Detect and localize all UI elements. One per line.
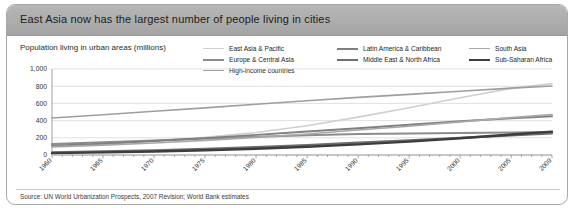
- legend-item-label: Latin America & Caribbean: [363, 45, 441, 52]
- chart-subtitle: Population living in urban areas (millio…: [20, 43, 166, 52]
- page-title: East Asia now has the largest number of …: [20, 13, 330, 25]
- source-divider: [16, 189, 560, 190]
- chart-svg: 02004006008001,0001960196519701975198019…: [20, 65, 556, 181]
- y-axis-tick-label: 800: [36, 83, 48, 90]
- legend-item-label: Europe & Central Asia: [229, 56, 294, 63]
- x-axis-tick-label: 1975: [190, 157, 206, 173]
- y-axis-tick-label: 400: [36, 117, 48, 124]
- x-axis-tick-label: 1990: [344, 157, 360, 173]
- legend-item: East Asia & Pacific: [203, 45, 284, 52]
- legend-item-label: Sub-Saharan Africa: [495, 56, 552, 63]
- x-axis-tick-label: 1985: [292, 157, 308, 173]
- series-line: [52, 86, 552, 118]
- x-axis-tick-label: 2005: [497, 157, 513, 173]
- y-axis-tick-label: 600: [36, 100, 48, 107]
- x-axis-tick-label: 1995: [395, 157, 411, 173]
- legend-color-swatch: [337, 59, 358, 61]
- source-note: Source: UN World Urbanization Prospects,…: [20, 193, 249, 200]
- legend-color-swatch: [469, 48, 490, 49]
- x-axis-tick-label: 2009: [537, 157, 553, 173]
- chart-plot-area: 02004006008001,0001960196519701975198019…: [20, 65, 556, 181]
- x-axis-tick-label: 1980: [241, 157, 257, 173]
- x-axis-tick-label: 1960: [37, 157, 53, 173]
- chart-figure: East Asia now has the largest number of …: [6, 4, 568, 205]
- legend-item: Middle East & North Africa: [337, 56, 440, 63]
- x-axis-tick-label: 1965: [88, 157, 104, 173]
- legend-color-swatch: [203, 59, 224, 61]
- chart-title-bar: East Asia now has the largest number of …: [7, 5, 567, 36]
- legend-color-swatch: [469, 59, 490, 61]
- x-axis-tick-label: 2000: [446, 157, 462, 173]
- x-axis-tick-label: 1970: [139, 157, 155, 173]
- legend-item: Sub-Saharan Africa: [469, 56, 552, 63]
- legend-item: Latin America & Caribbean: [337, 45, 441, 52]
- legend-color-swatch: [203, 48, 224, 49]
- legend-item-label: East Asia & Pacific: [229, 45, 284, 52]
- legend-item-label: South Asia: [495, 45, 527, 52]
- legend-item: Europe & Central Asia: [203, 56, 294, 63]
- legend-item: South Asia: [469, 45, 527, 52]
- legend-item-label: Middle East & North Africa: [363, 56, 440, 63]
- legend-color-swatch: [337, 48, 358, 50]
- y-axis-tick-label: 200: [36, 134, 48, 141]
- y-axis-tick-label: 1,000: [30, 65, 47, 72]
